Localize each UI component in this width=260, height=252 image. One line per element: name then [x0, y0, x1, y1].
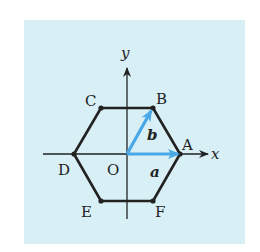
- vertex-label-e: E: [81, 203, 92, 221]
- vector-label-a: a: [150, 163, 160, 181]
- vertex-label-f: F: [155, 203, 165, 221]
- y-axis-label: y: [120, 44, 130, 62]
- hexagon-diagram: y x C B A D O E F b a: [0, 0, 260, 252]
- vertex-label-d: D: [58, 161, 70, 179]
- vertex-label-a: A: [181, 136, 193, 154]
- vector-label-b: b: [147, 126, 158, 144]
- vertex-label-b: B: [156, 90, 167, 108]
- origin-label: O: [107, 161, 119, 179]
- vertex-label-c: C: [85, 92, 96, 110]
- x-axis-label: x: [211, 145, 220, 163]
